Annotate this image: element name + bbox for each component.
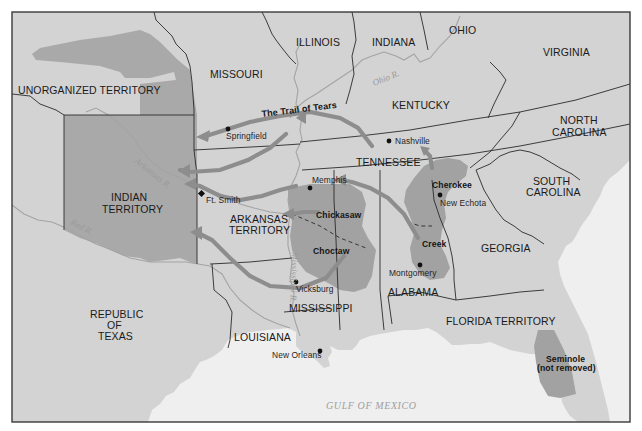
label-north-carolina-line1: NORTH [560,114,598,126]
label-illinois: ILLINOIS [296,36,340,48]
label-new-echota: New Echota [440,198,486,208]
label-missouri: MISSOURI [210,68,263,80]
label-choctaw: Choctaw [313,246,350,256]
label-mississippi: MISSISSIPPI [289,302,353,314]
label-virginia: VIRGINIA [543,46,590,58]
label-seminole-line2: (not removed) [537,363,596,373]
label-republic-of-texas-line3: TEXAS [98,330,133,342]
label-indiana: INDIANA [372,36,415,48]
nashville-dot [387,139,392,144]
label-new-orleans: New Orleans [272,350,322,360]
trail-of-tears-map: ILLINOIS INDIANA OHIO VIRGINIA MISSOURI … [0,0,642,431]
label-memphis: Memphis [312,175,347,185]
label-ohio: OHIO [449,24,476,36]
label-georgia: GEORGIA [481,242,531,254]
new-echota-dot [438,193,443,198]
label-arkansas-territory-line2: TERRITORY [229,224,290,236]
montgomery-dot [418,263,423,268]
memphis-dot [308,186,313,191]
label-south-carolina-line2: CAROLINA [526,186,580,198]
label-gulf-of-mexico: GULF OF MEXICO [326,400,417,411]
chickasaw-short-arrow [292,212,318,214]
label-louisiana: LOUISIANA [234,331,291,343]
label-ft-smith: Ft. Smith [206,195,241,205]
label-kentucky: KENTUCKY [392,99,450,111]
label-vicksburg: Vicksburg [296,284,334,294]
label-north-carolina-line2: CAROLINA [552,126,606,138]
label-chickasaw: Chickasaw [316,210,362,220]
label-creek: Creek [422,239,447,249]
label-mississippi-river: Mississippi R. [288,251,300,303]
label-montgomery: Montgomery [389,268,437,278]
label-florida-territory: FLORIDA TERRITORY [446,315,556,327]
label-springfield: Springfield [226,131,267,141]
label-unorganized-territory: UNORGANIZED TERRITORY [18,84,161,96]
label-tennessee: TENNESSEE [356,156,421,168]
label-alabama: ALABAMA [388,286,438,298]
label-indian-territory-line2: TERRITORY [102,203,163,215]
label-indian-territory-line1: INDIAN [111,191,147,203]
label-cherokee: Cherokee [432,180,472,190]
label-nashville: Nashville [395,136,430,146]
